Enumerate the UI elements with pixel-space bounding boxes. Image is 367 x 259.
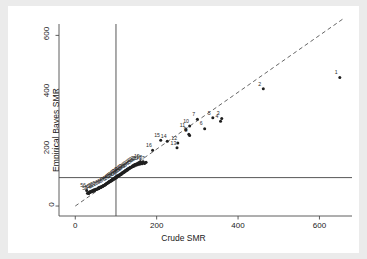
point-label: 6 [200,122,203,127]
x-tick-label: 200 [150,221,163,230]
x-tick-label: 600 [313,221,326,230]
data-point [220,117,223,120]
data-point [166,140,169,143]
point-label: 1 [335,71,338,76]
point-label: 14 [161,134,167,139]
data-point [90,190,93,193]
y-tick-label: 0 [49,200,53,209]
scatter-chart-svg [59,24,352,216]
x-tick-label: 0 [73,221,77,230]
data-point [338,76,341,79]
point-label: 16 [146,143,152,148]
plot-panel: Empirical Bayes SMR Crude SMR 1234567891… [8,6,359,253]
point-label: 5 [208,111,211,116]
data-point [176,146,179,149]
data-point [219,120,222,123]
y-tick-label: 400 [40,86,53,95]
y-tick-label: 200 [40,143,53,152]
point-label: 15 [154,134,160,139]
data-point [188,125,191,128]
figure-container: Empirical Bayes SMR Crude SMR 1234567891… [0,0,367,259]
plot-area: 1234567891011121314151617181920212223242… [59,24,352,216]
point-label: 9 [184,128,187,133]
y-tick-label: 600 [40,29,53,38]
data-point [87,192,90,195]
data-point [176,141,179,144]
point-label: 2 [258,82,261,87]
x-tick-label: 400 [231,221,244,230]
point-label: 13 [171,141,177,146]
data-point [203,127,206,130]
point-label: 4 [216,114,219,119]
point-label: 7 [192,112,195,117]
x-axis-title: Crude SMR [8,233,359,243]
data-point [151,149,154,152]
data-point [211,116,214,119]
data-point [187,133,190,136]
point-label: 11 [180,123,185,128]
data-point [196,118,199,121]
data-point [262,87,265,90]
point-label: 56 [80,184,86,189]
